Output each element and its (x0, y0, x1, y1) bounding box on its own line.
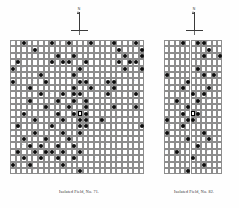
field-marker-dot[interactable] (78, 80, 82, 84)
field-grid-wrapper-left: abcdefghijklmnopqrstuvwxyzabcdefghijklmn… (10, 40, 148, 174)
field-panel-right: N abcdefghijklmnopqrstuvwxy (164, 8, 224, 174)
north-arrow-icon: N (66, 8, 92, 38)
field-marker-dot[interactable] (84, 112, 88, 116)
field-cell[interactable] (139, 168, 145, 174)
field-marker-dot[interactable] (56, 54, 60, 58)
field-marker-dot[interactable] (202, 163, 206, 167)
field-marker-dot[interactable] (28, 144, 32, 148)
north-arrow-icon: N (181, 8, 207, 38)
field-marker-dot[interactable] (175, 99, 179, 103)
field-marker-dot[interactable] (56, 99, 60, 103)
field-marker-dot[interactable] (186, 105, 190, 109)
field-marker-dot[interactable] (186, 169, 190, 173)
field-marker-dot[interactable] (28, 163, 32, 167)
field-marker-dot[interactable] (22, 112, 26, 116)
field-marker-dot[interactable] (186, 118, 190, 122)
field-panel-left: N abcdefghijklmnopqrstuvwxyzabcdefghijkl… (10, 8, 148, 174)
field-marker-dot[interactable] (207, 48, 211, 52)
field-marker-dot[interactable] (140, 48, 144, 52)
caption-field-82: Isolated Field, No. 82. (158, 189, 230, 195)
field-marker-dot[interactable] (39, 144, 43, 148)
field-marker-dot[interactable] (165, 73, 169, 77)
field-marker-dot[interactable] (78, 67, 82, 71)
field-marker-dot[interactable] (181, 112, 185, 116)
field-marker-dot[interactable] (117, 48, 121, 52)
field-marker-dot[interactable] (181, 41, 185, 45)
field-marker-dot[interactable] (202, 73, 206, 77)
field-marker-dot[interactable] (84, 118, 88, 122)
field-marker-dot[interactable] (165, 118, 169, 122)
field-marker-dot[interactable] (202, 41, 206, 45)
field-marker-dot[interactable] (186, 137, 190, 141)
field-focus-marker[interactable] (191, 111, 196, 116)
field-marker-dot[interactable] (28, 99, 32, 103)
field-grid-right[interactable]: abcdefghijklmnopqrstuvwxy (164, 40, 222, 174)
field-marker-dot[interactable] (28, 86, 32, 90)
field-marker-dot[interactable] (123, 54, 127, 58)
field-marker-dot[interactable] (202, 131, 206, 135)
caption-field-71: Isolated Field, No. 71. (10, 189, 148, 195)
field-marker-dot[interactable] (56, 112, 60, 116)
field-marker-dot[interactable] (181, 86, 185, 90)
field-marker-dot[interactable] (112, 41, 116, 45)
field-marker-dot[interactable] (106, 80, 110, 84)
figure-page: N abcdefghijklmnopqrstuvwxyzabcdefghijkl… (0, 0, 239, 208)
field-marker-dot[interactable] (140, 54, 144, 58)
field-cell[interactable] (217, 168, 222, 174)
field-marker-dot[interactable] (11, 163, 15, 167)
field-marker-dot[interactable] (123, 67, 127, 71)
field-marker-dot[interactable] (11, 67, 15, 71)
field-marker-dot[interactable] (181, 124, 185, 128)
field-marker-dot[interactable] (207, 86, 211, 90)
north-arrow-tail (79, 31, 80, 35)
field-marker-dot[interactable] (140, 67, 144, 71)
field-marker-dot[interactable] (112, 105, 116, 109)
field-marker-dot[interactable] (84, 99, 88, 103)
field-marker-dot[interactable] (186, 80, 190, 84)
field-focus-marker[interactable] (78, 111, 83, 116)
north-arrow-tail (194, 31, 195, 35)
field-marker-dot[interactable] (112, 80, 116, 84)
field-marker-dot[interactable] (78, 131, 82, 135)
field-marker-dot[interactable] (202, 54, 206, 58)
field-marker-dot[interactable] (112, 86, 116, 90)
field-marker-dot[interactable] (218, 54, 222, 58)
field-marker-dot[interactable] (165, 131, 169, 135)
field-marker-dot[interactable] (84, 80, 88, 84)
field-grid-left[interactable]: abcdefghijklmnopqrstuvwxyzabcdefghijklmn… (10, 40, 144, 174)
field-marker-dot[interactable] (84, 105, 88, 109)
field-marker-dot[interactable] (56, 144, 60, 148)
field-marker-dot[interactable] (33, 48, 37, 52)
field-grid-wrapper-right: abcdefghijklmnopqrstuvwxy (164, 40, 224, 174)
field-marker-dot[interactable] (11, 80, 15, 84)
